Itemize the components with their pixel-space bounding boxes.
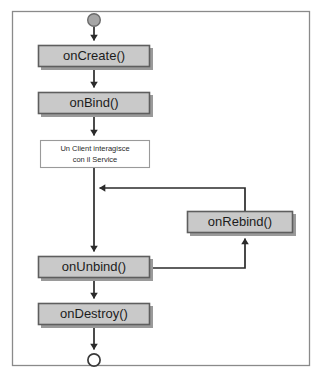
node-on-unbind-label: onUnbind()	[62, 259, 126, 274]
node-on-unbind[interactable]: onUnbind()	[39, 257, 154, 282]
node-on-destroy-label: onDestroy()	[60, 306, 128, 321]
node-client-note-line2: con il Service	[73, 155, 118, 164]
node-on-destroy[interactable]: onDestroy()	[39, 304, 154, 329]
node-on-rebind[interactable]: onRebind()	[188, 212, 297, 237]
node-on-bind-label: onBind()	[69, 95, 118, 110]
service-lifecycle-diagram: onCreate() onBind() Un Client interagisc…	[0, 0, 321, 383]
end-node	[88, 354, 100, 366]
start-node	[88, 14, 101, 27]
node-client-note: Un Client interagisce con il Service	[41, 141, 150, 168]
diagram-canvas: onCreate() onBind() Un Client interagisc…	[0, 0, 321, 383]
node-on-create-label: onCreate()	[63, 48, 125, 63]
node-on-create[interactable]: onCreate()	[39, 46, 154, 71]
node-on-bind[interactable]: onBind()	[39, 93, 154, 118]
node-client-note-line1: Un Client interagisce	[60, 144, 129, 153]
node-on-rebind-label: onRebind()	[208, 214, 272, 229]
